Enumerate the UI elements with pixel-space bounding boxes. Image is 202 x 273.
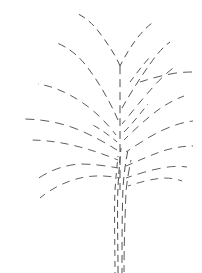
drawing-canvas	[0, 0, 202, 273]
plant-illustration	[0, 0, 202, 273]
canvas-background	[0, 0, 202, 273]
